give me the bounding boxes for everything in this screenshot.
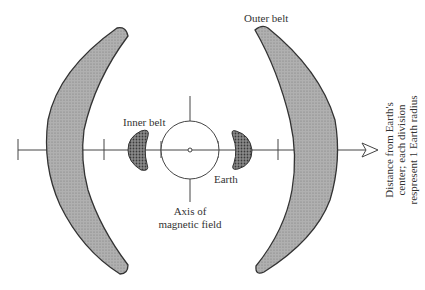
- radiation-belts-diagram: Outer belt Inner belt Earth Axis of magn…: [0, 0, 425, 290]
- inner-belt-label: Inner belt: [123, 116, 165, 128]
- outer-belt-label: Outer belt: [244, 12, 288, 24]
- svg-text:center; each division: center; each division: [395, 104, 407, 196]
- distance-label: Distance from Earth's center; each divis…: [383, 95, 419, 204]
- svg-text:Distance from Earth's: Distance from Earth's: [383, 102, 395, 197]
- axis-label-line2: magnetic field: [158, 218, 222, 230]
- earth-label: Earth: [214, 173, 238, 185]
- svg-text:respresent 1 Earth radius: respresent 1 Earth radius: [407, 95, 419, 204]
- inner-belt-left: [128, 130, 148, 170]
- earth-center-icon: [188, 148, 192, 152]
- outer-belt-left: [47, 28, 129, 274]
- axis-label-line1: Axis of: [174, 205, 207, 217]
